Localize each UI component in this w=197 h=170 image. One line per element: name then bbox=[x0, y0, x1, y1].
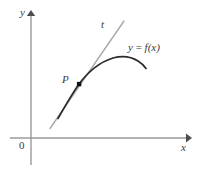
point-p-marker bbox=[77, 82, 81, 86]
x-axis-arrow-icon bbox=[186, 134, 192, 143]
origin-label: 0 bbox=[19, 140, 25, 151]
function-label-operator: = bbox=[133, 41, 145, 53]
tangent-line-figure: y x 0 t P y = f(x) bbox=[0, 0, 197, 170]
tangent-line-label: t bbox=[101, 19, 104, 30]
y-axis-arrow-icon bbox=[27, 10, 35, 16]
x-axis-label: x bbox=[181, 142, 186, 153]
function-label-rhs: f(x) bbox=[145, 41, 160, 53]
figure-canvas bbox=[0, 0, 197, 170]
function-curve bbox=[58, 57, 146, 119]
point-p-label: P bbox=[62, 74, 69, 85]
y-axis-label: y bbox=[20, 7, 25, 18]
function-label: y = f(x) bbox=[128, 42, 160, 53]
